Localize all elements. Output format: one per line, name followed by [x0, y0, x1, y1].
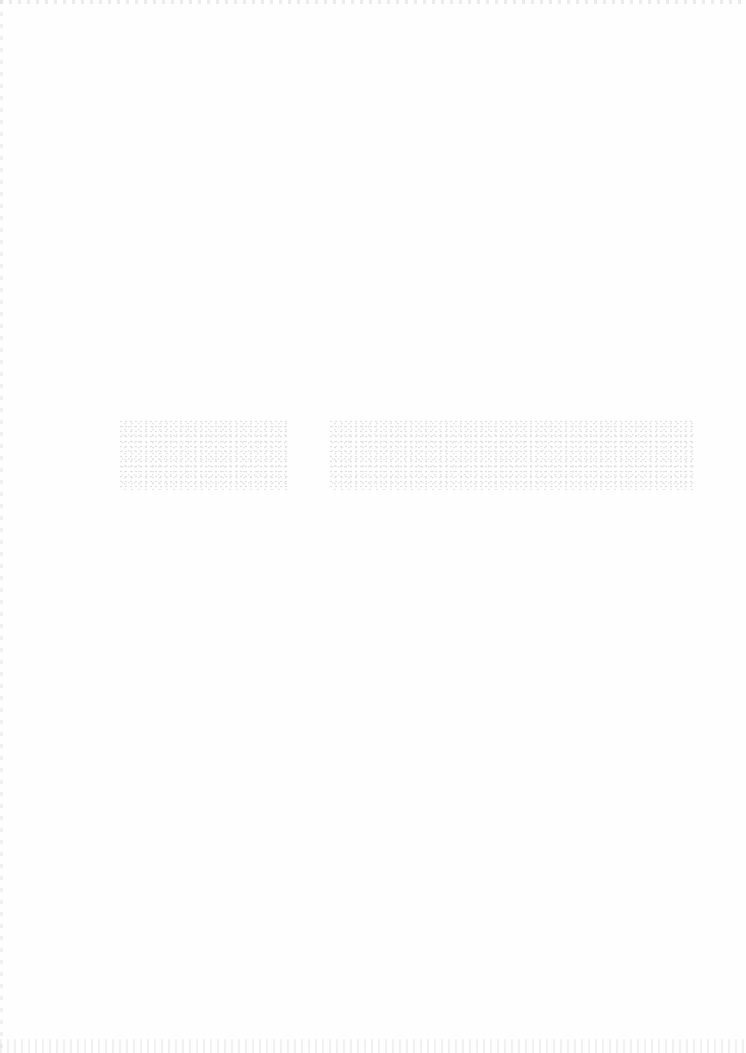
scan-edge-bottom: [0, 1039, 746, 1053]
faded-text-block-left: [120, 420, 290, 490]
scanned-page: [0, 0, 746, 1053]
scan-edge-left: [0, 0, 3, 1053]
faded-text-left: [120, 420, 290, 490]
scan-edge-top: [0, 0, 746, 4]
faded-text-right: [330, 420, 695, 490]
faded-text-block-right: [330, 420, 695, 490]
